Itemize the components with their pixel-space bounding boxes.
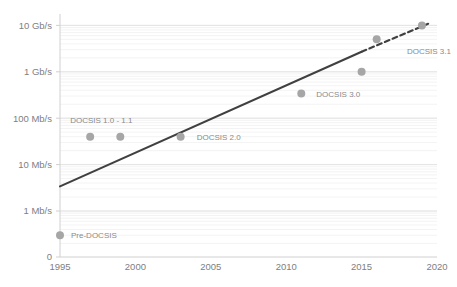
- x-axis-tick-label: 2005: [200, 261, 221, 272]
- data-point: [297, 90, 305, 98]
- y-axis-tick-label: 1 Gb/s: [24, 66, 52, 77]
- data-point: [418, 21, 426, 29]
- data-point: [177, 133, 185, 141]
- y-axis-tick-label: 10 Mb/s: [18, 159, 52, 170]
- x-axis-tick-label: 2015: [351, 261, 372, 272]
- x-axis-tick-labels: 199520002005201020152020: [49, 261, 447, 272]
- data-point-label: DOCSIS 3.0: [316, 90, 361, 99]
- data-point: [358, 68, 366, 76]
- x-axis-tick-label: 2010: [276, 261, 297, 272]
- data-point-label: DOCSIS 2.0: [197, 133, 242, 142]
- data-point-label: Pre-DOCSIS: [71, 231, 117, 240]
- y-axis-tick-labels: 10 Gb/s1 Gb/s100 Mb/s10 Mb/s1 Mb/s0: [13, 20, 52, 263]
- data-point-label: DOCSIS 3.1: [407, 47, 452, 56]
- data-point: [373, 35, 381, 43]
- chart-canvas: Pre-DOCSISDOCSIS 1.0 - 1.1DOCSIS 2.0DOCS…: [0, 0, 457, 287]
- data-point: [86, 133, 94, 141]
- data-point: [116, 133, 124, 141]
- x-axis-tick-label: 2000: [125, 261, 146, 272]
- y-axis-tick-label: 10 Gb/s: [19, 20, 53, 31]
- data-point-label: DOCSIS 1.0 - 1.1: [70, 116, 133, 125]
- y-axis-tick-label: 1 Mb/s: [23, 205, 52, 216]
- x-axis-tick-label: 1995: [49, 261, 70, 272]
- y-axis-tick-label: 100 Mb/s: [13, 113, 52, 124]
- docsis-speed-chart: Pre-DOCSISDOCSIS 1.0 - 1.1DOCSIS 2.0DOCS…: [0, 0, 457, 287]
- x-axis-tick-label: 2020: [426, 261, 447, 272]
- data-point: [56, 231, 64, 239]
- y-tick-marks: [56, 25, 60, 257]
